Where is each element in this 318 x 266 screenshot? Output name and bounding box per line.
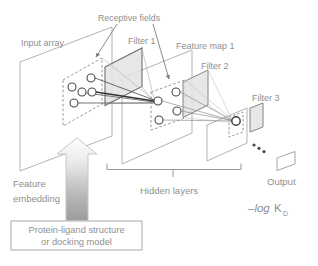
formula-subscript: D xyxy=(283,210,288,217)
node-circle xyxy=(88,88,96,96)
feature-embedding-arrow xyxy=(57,138,97,221)
label-feature-embedding-line2: embedding xyxy=(13,193,60,204)
output-node-square xyxy=(277,152,295,171)
source-box-line-1: Protein-ligand structure xyxy=(28,225,124,235)
hidden-layers-bracket xyxy=(107,164,241,178)
node-circle xyxy=(154,97,162,105)
node-circle xyxy=(78,88,86,96)
node-circle xyxy=(172,88,180,96)
label-filter-1: Filter 1 xyxy=(128,36,156,46)
formula-prefix: –log xyxy=(247,202,270,214)
label-hidden-layers: Hidden layers xyxy=(140,185,198,196)
input-receptive-field-nodes xyxy=(68,74,96,107)
node-circle xyxy=(173,107,181,115)
label-filter-2: Filter 2 xyxy=(201,61,229,71)
cnn-architecture-figure: Receptive fields Input array Filter 1 Fe… xyxy=(0,0,318,266)
plane-2-node xyxy=(232,117,240,125)
node-circle xyxy=(68,83,76,91)
figure-canvas: Receptive fields Input array Filter 1 Fe… xyxy=(0,0,318,266)
source-box-line-2: or docking model xyxy=(41,237,112,247)
node-circle xyxy=(155,116,163,124)
label-feature-map-1: Feature map 1 xyxy=(176,41,235,51)
label-output: Output xyxy=(267,176,296,187)
label-input-array: Input array xyxy=(21,38,65,48)
formula-symbol: K xyxy=(274,202,282,214)
hidden-plane-2 xyxy=(207,108,247,161)
filter-3-pane xyxy=(250,103,263,132)
label-filter-3: Filter 3 xyxy=(252,93,280,103)
feature-map-1-nodes xyxy=(154,88,181,124)
node-circle xyxy=(87,74,95,82)
ellipsis-dots xyxy=(252,143,265,153)
node-circle xyxy=(70,99,78,107)
label-feature-embedding-line1: Feature xyxy=(13,178,46,189)
output-formula: –log K D xyxy=(247,202,288,217)
label-receptive-fields: Receptive fields xyxy=(98,13,161,23)
receptive-fields-arrow-right xyxy=(153,24,169,79)
